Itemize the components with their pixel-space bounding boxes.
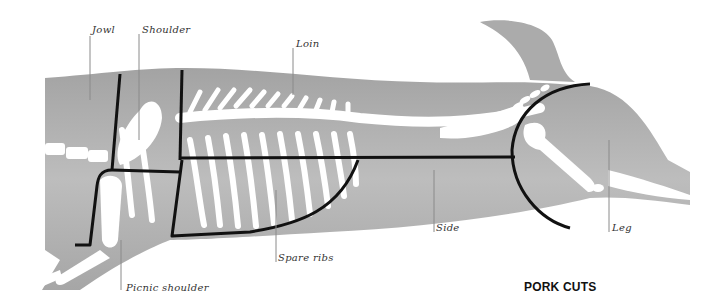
- diagram-title: PORK CUTS: [524, 280, 596, 294]
- spare-ribs-top-cut: [180, 157, 515, 158]
- label-jowl: Jowl: [92, 24, 115, 35]
- picnic-cut: [112, 170, 180, 172]
- label-spare-ribs: Spare ribs: [278, 252, 334, 263]
- pig-skeleton-illustration: [0, 0, 721, 302]
- label-loin: Loin: [296, 38, 320, 49]
- tail-shape: [480, 20, 575, 82]
- label-side: Side: [436, 222, 460, 233]
- label-leg: Leg: [612, 222, 632, 233]
- label-picnic-shoulder: Picnic shoulder: [126, 282, 209, 293]
- pork-cuts-diagram: Jowl Shoulder Loin Picnic shoulder Spare…: [0, 0, 721, 302]
- shoulder-loin-cut: [180, 70, 182, 160]
- label-shoulder: Shoulder: [142, 24, 190, 35]
